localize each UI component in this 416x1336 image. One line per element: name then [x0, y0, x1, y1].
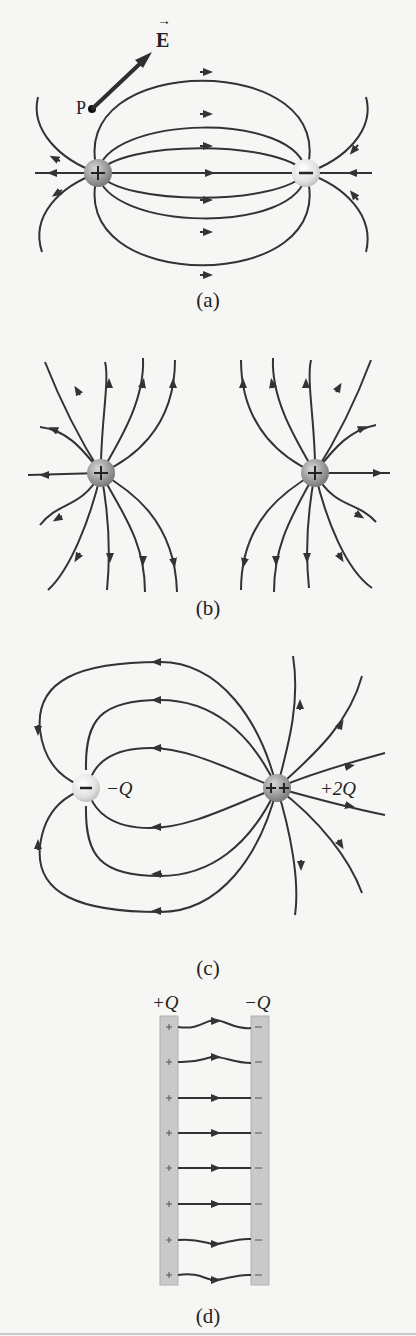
vector-arrow-symbol: →	[157, 14, 171, 28]
caption-b: (b)	[196, 598, 221, 619]
electric-field-figure	[0, 0, 416, 1336]
e-vector-arrow	[92, 58, 146, 109]
caption-d: (d)	[196, 1306, 221, 1327]
negative-plate	[251, 1016, 269, 1285]
plate-minus-q-label: −Q	[244, 993, 271, 1012]
plate-plus-q-label: +Q	[152, 993, 179, 1012]
bottom-rule	[0, 1333, 416, 1335]
e-vector-label: E	[156, 30, 169, 50]
point-p-label: P	[76, 99, 86, 117]
caption-a: (a)	[196, 290, 219, 311]
plus-2q-label: +2Q	[320, 779, 356, 798]
panel-d-parallel-plates	[160, 1016, 269, 1285]
caption-c: (c)	[196, 958, 219, 979]
positive-plate	[160, 1016, 178, 1285]
minus-q-label: −Q	[106, 779, 133, 798]
panel-a-dipole	[35, 52, 372, 275]
panel-b-two-positive	[28, 358, 390, 592]
